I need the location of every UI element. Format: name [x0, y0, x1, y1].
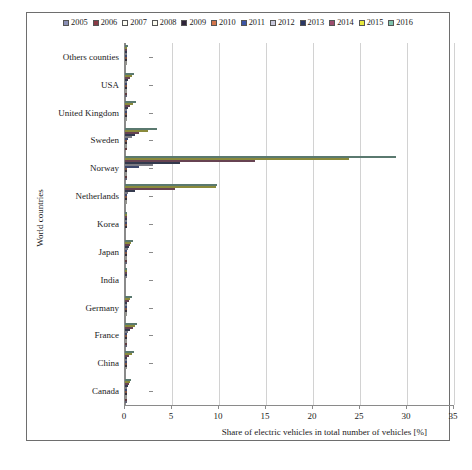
legend-label-2011: 2011: [249, 19, 265, 27]
bar-2009-france: [125, 337, 127, 339]
bar-2015-india: [125, 270, 127, 272]
bar-2011-norway: [125, 166, 139, 168]
bar-2007-usa: [125, 91, 127, 93]
bar-2012-china: [125, 359, 127, 361]
x-tick-35: [453, 405, 454, 409]
bar-2013-france: [125, 329, 130, 331]
bar-2011-netherlands: [125, 194, 127, 196]
bar-2014-united-kingdom: [125, 105, 130, 107]
bar-2015-norway: [125, 158, 349, 160]
y-axis-label-sweden: Sweden: [91, 135, 120, 145]
bar-2012-sweden: [125, 136, 132, 138]
legend-item-2005[interactable]: 2005: [63, 19, 88, 27]
bar-group-india: [125, 266, 453, 294]
bar-2014-india: [125, 272, 127, 274]
bar-2016-france: [125, 323, 137, 325]
bar-2009-china: [125, 365, 127, 367]
y-axis-label-japan: Japan: [99, 247, 120, 257]
legend-item-2011[interactable]: 2011: [241, 19, 265, 27]
y-axis-title: World countries: [35, 189, 45, 247]
bar-2007-france: [125, 341, 127, 343]
legend-swatch-2008: [152, 20, 158, 26]
bar-2013-sweden: [125, 134, 135, 136]
x-tick-label-30: 30: [402, 411, 411, 421]
bar-2013-others-counties: [125, 51, 127, 53]
bar-2009-others-counties: [125, 59, 127, 61]
legend-item-2006[interactable]: 2006: [93, 19, 118, 27]
legend-item-2007[interactable]: 2007: [122, 19, 147, 27]
bar-2007-japan: [125, 258, 127, 260]
bar-2013-norway: [125, 162, 180, 164]
bar-2008-usa: [125, 89, 127, 91]
bar-2013-japan: [125, 246, 129, 248]
bar-group-germany: [125, 294, 453, 322]
bar-2014-norway: [125, 160, 255, 162]
legend-label-2006: 2006: [101, 19, 118, 27]
bar-2006-usa: [125, 93, 127, 95]
plot-area: [124, 43, 453, 405]
x-axis-title: Share of electric vehicles in total numb…: [222, 427, 427, 437]
bar-2013-netherlands: [125, 190, 135, 192]
bar-2007-netherlands: [125, 202, 127, 204]
y-axis-label-others-counties: Others counties: [63, 52, 119, 62]
y-axis-label-norway: Norway: [90, 163, 119, 173]
bar-2010-germany: [125, 308, 127, 310]
legend-item-2016[interactable]: 2016: [388, 19, 413, 27]
bar-2015-united-kingdom: [125, 103, 133, 105]
bar-2010-korea: [125, 224, 127, 226]
bar-2016-usa: [125, 73, 134, 75]
legend-item-2010[interactable]: 2010: [211, 19, 236, 27]
bar-2009-germany: [125, 310, 127, 312]
y-axis-label-france: France: [95, 330, 120, 340]
y-axis-label-india: India: [101, 275, 120, 285]
bar-2015-sweden: [125, 130, 148, 132]
bar-2012-france: [125, 331, 128, 333]
legend-swatch-2013: [300, 20, 306, 26]
y-axis-label-united-kingdom: United Kingdom: [58, 108, 119, 118]
y-axis-label-netherlands: Netherlands: [76, 191, 119, 201]
bar-2011-others-counties: [125, 55, 127, 57]
bar-2015-china: [125, 353, 132, 355]
bar-2013-germany: [125, 302, 127, 304]
legend-swatch-2005: [63, 20, 69, 26]
bar-2015-germany: [125, 298, 130, 300]
bar-2014-netherlands: [125, 188, 175, 190]
bar-2012-others-counties: [125, 53, 127, 55]
bar-2005-norway: [125, 178, 127, 180]
legend-label-2005: 2005: [71, 19, 88, 27]
bar-2010-united-kingdom: [125, 113, 127, 115]
bar-group-china: [125, 349, 453, 377]
bar-2012-korea: [125, 220, 127, 222]
bar-2011-sweden: [125, 138, 128, 140]
bar-2011-korea: [125, 222, 127, 224]
x-tick-label-0: 0: [122, 411, 127, 421]
legend-item-2009[interactable]: 2009: [181, 19, 206, 27]
bar-2008-netherlands: [125, 200, 127, 202]
bar-2012-canada: [125, 387, 127, 389]
legend-item-2015[interactable]: 2015: [359, 19, 384, 27]
bar-2016-united-kingdom: [125, 101, 136, 103]
bar-2006-sweden: [125, 148, 127, 150]
bar-2005-usa: [125, 95, 127, 97]
bar-2014-china: [125, 355, 129, 357]
legend-item-2013[interactable]: 2013: [300, 19, 325, 27]
legend-item-2008[interactable]: 2008: [152, 19, 177, 27]
bar-2015-others-counties: [125, 47, 127, 49]
legend-swatch-2006: [93, 20, 99, 26]
x-tick-label-15: 15: [261, 411, 270, 421]
x-tick-0: [124, 405, 125, 409]
chart-legend: 2005200620072008200920102011201220132014…: [27, 19, 449, 27]
legend-item-2014[interactable]: 2014: [329, 19, 354, 27]
bar-2010-canada: [125, 391, 127, 393]
bar-2010-china: [125, 363, 127, 365]
bar-group-sweden: [125, 127, 453, 155]
bar-group-others-counties: [125, 43, 453, 71]
bar-2015-canada: [125, 381, 130, 383]
bar-group-netherlands: [125, 182, 453, 210]
x-tick-5: [171, 405, 172, 409]
bar-2014-france: [125, 327, 133, 329]
legend-item-2012[interactable]: 2012: [270, 19, 295, 27]
legend-label-2014: 2014: [337, 19, 354, 27]
legend-label-2012: 2012: [278, 19, 295, 27]
bar-2009-usa: [125, 87, 127, 89]
